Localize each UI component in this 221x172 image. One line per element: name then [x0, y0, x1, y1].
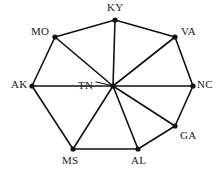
node-label-tn: TN — [78, 80, 93, 91]
node-label-va: VA — [181, 26, 196, 37]
node-marker-al[interactable] — [135, 146, 140, 151]
node-label-ga: GA — [180, 130, 196, 141]
node-markers-group — [29, 17, 195, 151]
node-marker-nc[interactable] — [190, 83, 195, 88]
edge-mo-ky — [55, 20, 115, 37]
edge-va-nc — [175, 37, 193, 86]
edge-tn-ga — [113, 86, 175, 126]
node-label-ak: AK — [11, 79, 27, 90]
node-marker-ga[interactable] — [172, 123, 177, 128]
edge-nc-ga — [175, 86, 193, 126]
node-label-ky: KY — [107, 2, 123, 13]
node-marker-ky[interactable] — [112, 17, 117, 22]
edge-ga-al — [138, 126, 175, 149]
edge-ky-va — [115, 20, 175, 37]
node-label-mo: MO — [31, 26, 49, 37]
node-marker-ms[interactable] — [70, 146, 75, 151]
node-label-ms: MS — [62, 155, 78, 166]
node-marker-ak[interactable] — [29, 83, 34, 88]
node-label-nc: NC — [197, 79, 213, 90]
edge-ak-mo — [32, 37, 55, 86]
edge-tn-va — [113, 37, 175, 86]
edge-ms-ak — [32, 86, 73, 149]
edge-tn-al — [113, 86, 138, 149]
node-label-al: AL — [131, 155, 146, 166]
node-marker-tn[interactable] — [110, 83, 115, 88]
edge-tn-ky — [113, 20, 115, 86]
state-adjacency-diagram: KYVANCGAALMSAKMOTN — [0, 0, 221, 172]
node-marker-va[interactable] — [172, 34, 177, 39]
node-marker-mo[interactable] — [52, 34, 57, 39]
edge-tn-ms — [73, 86, 113, 149]
